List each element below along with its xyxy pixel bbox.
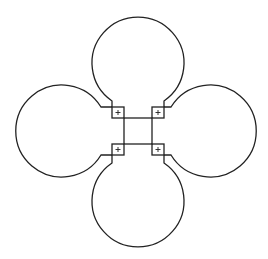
center-square	[124, 118, 152, 144]
corner-marker-top-left	[112, 107, 124, 118]
lobe-bottom	[92, 155, 184, 247]
lobe-right	[164, 85, 256, 177]
corner-marker-bottom-left	[112, 144, 124, 155]
lobe-left	[16, 85, 112, 177]
outline	[16, 17, 256, 247]
four-lobe-diagram	[0, 0, 268, 259]
lobe-top	[92, 17, 184, 107]
corner-marker-bottom-right	[152, 144, 164, 155]
corner-marker-top-right	[152, 107, 164, 118]
